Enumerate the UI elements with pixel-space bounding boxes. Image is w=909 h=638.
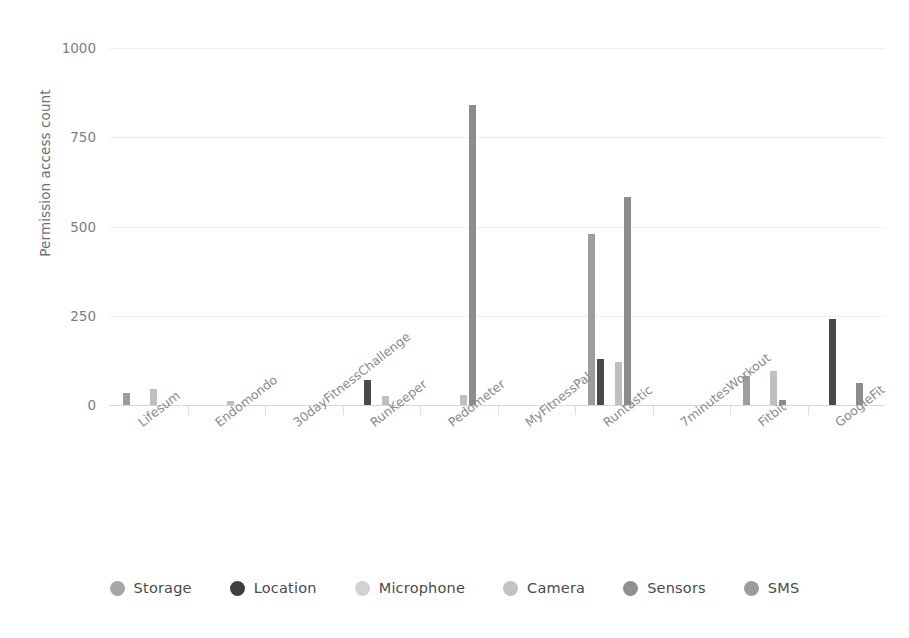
bar-group (730, 48, 808, 405)
category-separator (730, 405, 731, 415)
bar (123, 393, 130, 405)
bar-group (808, 48, 886, 405)
category-separator (653, 405, 654, 415)
legend-item[interactable]: Camera (503, 580, 585, 596)
y-axis-title: Permission access count (37, 58, 53, 288)
legend-label: Camera (527, 580, 585, 596)
bar (770, 371, 777, 405)
plot-area: 02505007501000 (110, 48, 885, 406)
legend-swatch-icon (355, 581, 370, 596)
category-separator (498, 405, 499, 415)
y-tick-label: 750 (42, 129, 96, 145)
bar (597, 359, 604, 405)
bar-group (498, 48, 576, 405)
category-separator (188, 405, 189, 415)
bar (469, 105, 476, 405)
legend-item[interactable]: Storage (110, 580, 192, 596)
bar (829, 319, 836, 405)
bar-group (265, 48, 343, 405)
legend-item[interactable]: Sensors (623, 580, 706, 596)
bar-group (575, 48, 653, 405)
category-separator (420, 405, 421, 415)
legend: StorageLocationMicrophoneCameraSensorsSM… (0, 580, 909, 596)
category-separator (343, 405, 344, 415)
y-tick-label: 0 (42, 397, 96, 413)
legend-swatch-icon (110, 581, 125, 596)
legend-label: Microphone (379, 580, 465, 596)
y-tick-label: 250 (42, 308, 96, 324)
bar-group (653, 48, 731, 405)
bar (615, 362, 622, 405)
bar (624, 197, 631, 405)
category-separator (808, 405, 809, 415)
legend-label: Sensors (647, 580, 706, 596)
bar-chart: Permission access count 02505007501000 L… (0, 0, 909, 638)
legend-item[interactable]: Location (230, 580, 317, 596)
bar-group (188, 48, 266, 405)
bar (364, 380, 371, 405)
legend-item[interactable]: Microphone (355, 580, 465, 596)
bar-group (420, 48, 498, 405)
category-separator (575, 405, 576, 415)
legend-swatch-icon (744, 581, 759, 596)
legend-label: SMS (768, 580, 800, 596)
legend-swatch-icon (623, 581, 638, 596)
legend-label: Location (254, 580, 317, 596)
legend-item[interactable]: SMS (744, 580, 800, 596)
legend-swatch-icon (503, 581, 518, 596)
category-separator (265, 405, 266, 415)
bar-group (110, 48, 188, 405)
y-tick-label: 1000 (42, 40, 96, 56)
y-tick-label: 500 (42, 219, 96, 235)
legend-swatch-icon (230, 581, 245, 596)
legend-label: Storage (134, 580, 192, 596)
